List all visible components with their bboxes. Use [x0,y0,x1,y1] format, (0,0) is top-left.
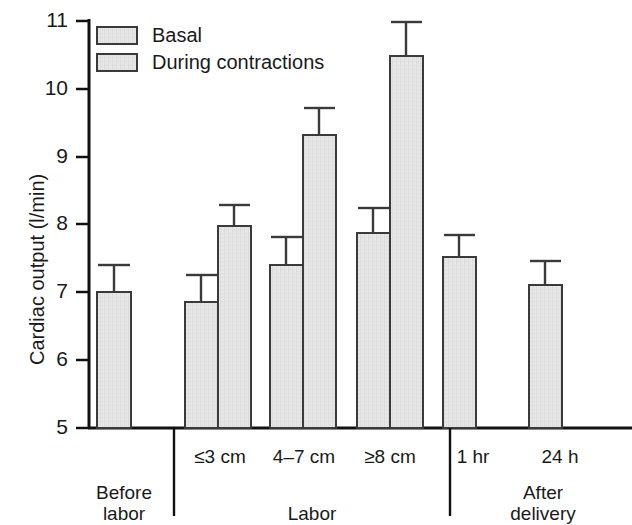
y-tick-label-6: 6 [34,347,68,371]
group-label-before-labor-line2: labor [74,503,174,525]
bar-ge8cm-basal [357,233,390,428]
bar-le3cm-during [218,226,251,428]
category-label-ge8cm: ≥8 cm [345,446,435,468]
legend-label-during-contractions: During contractions [152,51,324,74]
y-tick-label-10: 10 [34,76,68,100]
legend-label-basal: Basal [152,24,202,47]
y-tick-label-8: 8 [34,211,68,235]
bar-4to7cm-during [303,135,336,428]
y-tick-label-11: 11 [34,8,68,32]
category-label-le3cm: ≤3 cm [175,446,265,468]
bar-ge8cm-during [390,56,423,428]
bar-24h-basal [529,285,562,428]
category-label-4to7cm: 4–7 cm [259,446,349,468]
group-label-after-delivery-line1: After [488,482,598,504]
category-label-24h: 24 h [520,446,600,468]
y-tick-label-7: 7 [34,279,68,303]
bar-1hr-basal [443,257,476,428]
bars-group [97,56,562,428]
group-label-after-delivery-line2: delivery [488,503,598,525]
y-axis-title: Cardiac output (l/min) [26,174,49,365]
group-label-labor: Labor [262,503,362,525]
legend-swatch-during-contractions [97,54,137,71]
y-tick-label-9: 9 [34,144,68,168]
bar-4to7cm-basal [270,265,303,428]
category-label-1hr: 1 hr [438,446,508,468]
bar-before-labor-basal [97,292,131,428]
y-axis-ticks [76,21,89,428]
y-tick-label-5: 5 [34,415,68,439]
bar-le3cm-basal [185,302,218,428]
legend-swatches [97,27,137,71]
group-label-before-labor-line1: Before [74,482,174,504]
legend-swatch-basal [97,27,137,44]
